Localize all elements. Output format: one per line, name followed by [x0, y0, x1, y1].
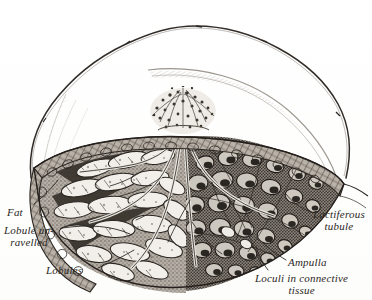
label-lobule-unravelled: Lobule un-ravelled	[4, 224, 54, 248]
label-lobule-unravelled-line2: ravelled	[4, 236, 54, 248]
label-loculi-line2: tissue	[288, 284, 314, 296]
label-lactiferous-tubule-line1: Lactiferous	[313, 208, 365, 220]
label-loculi-in-connective-tissue: Loculi in connectivetissue	[255, 272, 348, 296]
label-ampulla: Ampulla	[288, 256, 327, 268]
label-lobules: Lobules	[46, 264, 82, 276]
mammary-gland-engraving	[0, 0, 372, 300]
label-fat: Fat	[7, 206, 23, 218]
label-lobule-unravelled-line1: Lobule un-	[4, 224, 54, 236]
label-lactiferous-tubule-line2: tubule	[325, 220, 354, 232]
label-lactiferous-tubule: Lactiferoustubule	[313, 208, 365, 232]
label-loculi-line1: Loculi in connective	[255, 272, 348, 284]
